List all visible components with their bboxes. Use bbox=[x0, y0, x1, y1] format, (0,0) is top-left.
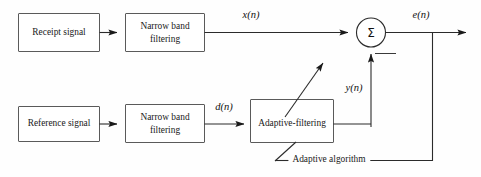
narrow-band-bottom-block: Narrow band filtering bbox=[126, 105, 205, 143]
block-diagram: Receipt signal Narrow band filtering x(n… bbox=[0, 0, 481, 177]
sigma-symbol: Σ bbox=[367, 26, 375, 40]
diagram-canvas: Receipt signal Narrow band filtering x(n… bbox=[0, 0, 481, 177]
narrow-band-bottom-box bbox=[126, 105, 205, 143]
adaptive-filtering-label: Adaptive-filtering bbox=[258, 118, 326, 128]
narrow-band-top-label-line1: Narrow band bbox=[140, 21, 190, 31]
signal-label-x-n: x(n) bbox=[242, 9, 260, 21]
reference-signal-label: Reference signal bbox=[28, 118, 91, 128]
receipt-signal-label: Receipt signal bbox=[32, 27, 86, 37]
narrow-band-top-box bbox=[126, 14, 205, 52]
signal-label-y-n: y(n) bbox=[345, 82, 363, 94]
adaptive-algorithm-label: Adaptive algorithm bbox=[292, 154, 366, 164]
wire-e-feedback-path bbox=[370, 33, 432, 161]
narrow-band-bottom-label-line1: Narrow band bbox=[140, 112, 190, 122]
adaptive-filtering-block: Adaptive-filtering bbox=[251, 100, 334, 143]
receipt-signal-block: Receipt signal bbox=[19, 14, 100, 52]
summing-node: Σ bbox=[357, 18, 386, 47]
narrow-band-bottom-label-line2: filtering bbox=[150, 125, 181, 135]
reference-signal-block: Reference signal bbox=[19, 107, 100, 142]
signal-label-e-n: e(n) bbox=[413, 9, 430, 21]
narrow-band-top-label-line2: filtering bbox=[150, 34, 181, 44]
signal-label-d-n: d(n) bbox=[215, 101, 233, 113]
narrow-band-top-block: Narrow band filtering bbox=[126, 14, 205, 52]
